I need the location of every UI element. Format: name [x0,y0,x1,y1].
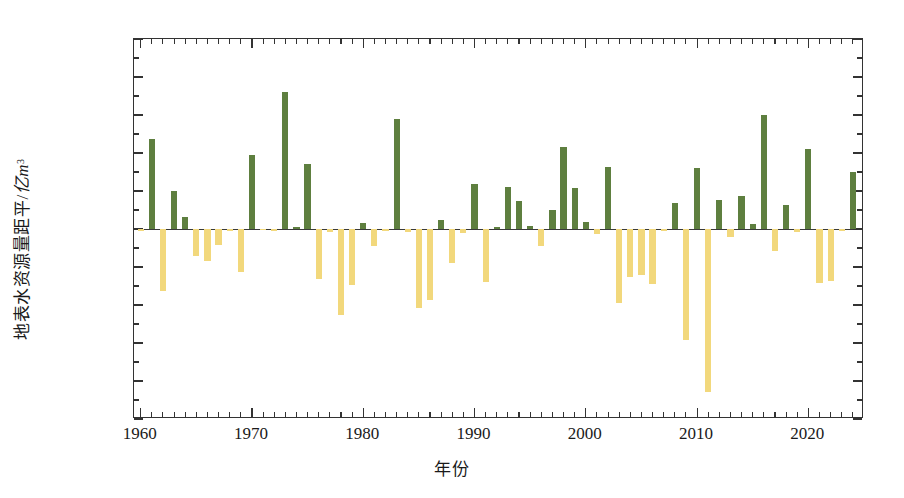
x-axis-tick-label: 1980 [345,424,379,444]
x-axis-minor-tick [418,412,419,417]
x-axis-tick-top [374,39,375,44]
y-axis-tick-right [853,304,862,305]
x-axis-tick-top [329,39,330,44]
x-axis-minor-tick [507,412,508,417]
x-axis-minor-tick [674,412,675,417]
x-axis-tick-top [174,39,175,44]
x-axis-tick-top [652,39,653,44]
y-axis-minor-tick-right [857,247,862,248]
x-axis-minor-tick [518,412,519,417]
x-axis-tick-top [441,39,442,44]
x-axis-minor-tick [574,412,575,417]
x-axis-tick-top [852,39,853,44]
x-axis-minor-tick [374,412,375,417]
x-axis-minor-tick [786,412,787,417]
x-axis-tick-top [641,39,642,44]
y-axis-tick [134,114,143,115]
bar [594,229,600,234]
bar [605,167,611,229]
bar [516,201,522,229]
x-axis-tick-top [463,39,464,44]
x-axis-major-tick [140,408,141,417]
x-axis-tick-top [207,39,208,44]
x-axis-minor-tick [407,412,408,417]
bar [360,223,366,229]
x-axis-minor-tick [630,412,631,417]
x-axis-minor-tick [652,412,653,417]
x-axis-tick-top [596,39,597,44]
y-axis-minor-tick-right [857,95,862,96]
x-axis-minor-tick [852,412,853,417]
x-axis-minor-tick [263,412,264,417]
y-axis-minor-tick [134,57,139,58]
x-axis-tick-top [285,39,286,44]
x-axis-tick-top [530,39,531,44]
bar [371,229,377,246]
x-axis-minor-tick [830,412,831,417]
x-axis-tick-top [608,39,609,44]
bar [572,188,578,229]
bar [215,229,221,245]
bar [661,229,667,231]
x-axis-minor-tick [352,412,353,417]
x-axis-tick-top [352,39,353,44]
x-axis-tick-top [485,39,486,44]
bar [405,229,411,232]
x-axis-tick-top [841,39,842,44]
x-axis-minor-tick [196,412,197,417]
y-axis-tick [134,304,143,305]
y-axis-tick-right [853,342,862,343]
x-axis-major-tick [585,408,586,417]
x-axis-minor-tick [596,412,597,417]
x-axis-tick-top [307,39,308,44]
y-axis-minor-tick-right [857,57,862,58]
bar [171,191,177,229]
y-axis-minor-tick-right [857,323,862,324]
y-axis-minor-tick [134,323,139,324]
x-axis-tick-top [630,39,631,44]
x-axis-tick-top [663,39,664,44]
bar [204,229,210,261]
x-axis-minor-tick [752,412,753,417]
x-axis-tick-top [797,39,798,44]
x-axis-tick-top [151,39,152,44]
x-axis-minor-tick [429,412,430,417]
bar [638,229,644,275]
bar [416,229,422,308]
bar [716,200,722,229]
bar [349,229,355,285]
y-axis-tick [134,76,143,77]
x-axis-tick-top [496,39,497,44]
x-axis-tick-top [708,39,709,44]
x-axis-tick-top [263,39,264,44]
x-axis-minor-tick [285,412,286,417]
bar [750,224,756,229]
x-axis-tick-top [162,39,163,44]
x-axis-minor-tick [185,412,186,417]
bar [471,184,477,229]
x-axis-tick-top [808,39,809,48]
x-axis-minor-tick [296,412,297,417]
x-axis-minor-tick [797,412,798,417]
x-axis-minor-tick [396,412,397,417]
x-axis-minor-tick [174,412,175,417]
x-axis-tick-top [774,39,775,44]
y-axis-tick-right [853,418,862,419]
x-axis-tick-top [251,39,252,48]
x-axis-minor-tick [619,412,620,417]
bar [338,229,344,315]
x-axis-minor-tick [541,412,542,417]
x-axis-minor-tick [207,412,208,417]
x-axis-tick-top [518,39,519,44]
bar [560,147,566,229]
y-axis-minor-tick-right [857,209,862,210]
x-axis-major-tick [697,408,698,417]
x-axis-minor-tick [730,412,731,417]
y-axis-title-text: 地表水资源量距平/ [8,194,33,339]
x-axis-minor-tick [162,412,163,417]
x-axis-major-tick [474,408,475,417]
x-axis-tick-top [185,39,186,44]
bar [193,229,199,256]
x-axis-minor-tick [229,412,230,417]
x-axis-major-tick [808,408,809,417]
